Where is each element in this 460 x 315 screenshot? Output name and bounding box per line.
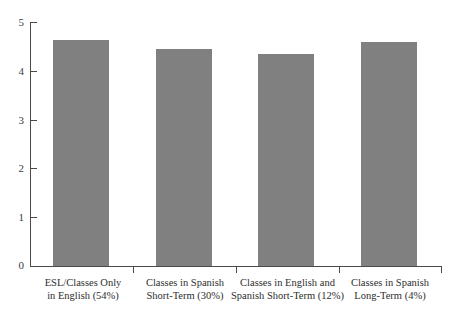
y-tick-label-0: 0 bbox=[0, 260, 24, 271]
x-tick-mark-1 bbox=[236, 267, 237, 273]
x-tick-mark-0 bbox=[133, 267, 134, 273]
y-tick-label-4: 4 bbox=[0, 66, 24, 77]
bar-chart: 5 4 3 2 1 0 ESL/Classes Only in English … bbox=[0, 0, 460, 315]
plot-area bbox=[30, 22, 442, 266]
y-tick-label-2: 2 bbox=[0, 163, 24, 174]
x-tick-mark-3 bbox=[441, 267, 442, 273]
y-tick-label-3: 3 bbox=[0, 115, 24, 126]
y-tick-label-5: 5 bbox=[0, 17, 24, 28]
bar-2 bbox=[258, 54, 314, 266]
x-tick-mark-2 bbox=[339, 267, 340, 273]
x-axis-label-3-line2: Long-Term (4%) bbox=[329, 289, 451, 302]
y-tick-label-1: 1 bbox=[0, 212, 24, 223]
x-axis-label-3: Classes in Spanish Long-Term (4%) bbox=[329, 276, 451, 302]
bar-3 bbox=[361, 42, 417, 266]
bar-1 bbox=[156, 49, 212, 266]
bar-0 bbox=[53, 40, 109, 266]
x-axis-label-3-line1: Classes in Spanish bbox=[329, 276, 451, 289]
